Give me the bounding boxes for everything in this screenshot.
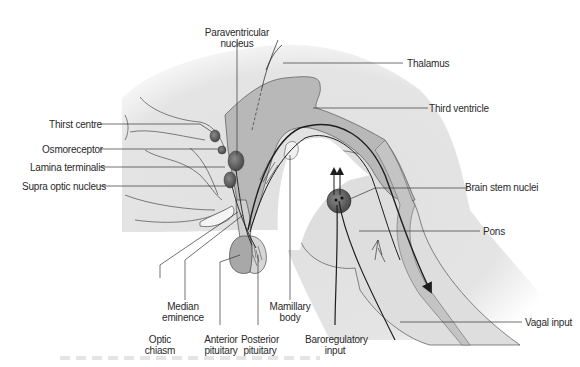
label-line: Baroregulatory [305,334,365,345]
label-lamina-terminalis: Lamina terminalis [30,162,105,173]
label-mamillary-body: Mamillary body [265,301,315,323]
label-line: Median [158,301,208,312]
label-paraventricular-nucleus: Paraventricular nucleus [202,27,272,49]
label-thirst-centre: Thirst centre [49,119,102,130]
label-posterior-pituitary: Posterior pituitary [238,334,282,356]
label-line: Optic [140,334,180,345]
label-line: body [265,312,315,323]
label-optic-chiasm: Optic chiasm [140,334,180,356]
label-vagal-input: Vagal input [525,317,572,328]
label-line: Paraventricular [202,27,272,38]
label-line: Anterior [200,334,242,345]
anterior-pituitary-shape [230,236,253,274]
paraventricular-nucleus-shape [228,151,244,171]
label-supra-optic-nucleus: Supra optic nucleus [22,181,106,192]
label-anterior-pituitary: Anterior pituitary [200,334,242,356]
label-third-ventricle: Third ventricle [429,103,489,114]
label-line: pituitary [238,345,282,356]
label-line: eminence [158,312,208,323]
label-pons: Pons [483,226,505,237]
label-brain-stem-nuclei: Brain stem nuclei [465,182,538,193]
label-line: Posterior [238,334,282,345]
label-line: input [305,345,365,356]
clipped-caption [60,356,320,360]
neuron-dot [341,197,344,200]
label-median-eminence: Median eminence [158,301,208,323]
supraoptic-nucleus-shape [224,172,236,188]
osmoreceptor-nucleus [218,146,226,154]
neuron-dot [335,199,338,202]
label-line: chiasm [140,345,180,356]
label-line: pituitary [200,345,242,356]
label-osmoreceptor: Osmoreceptor [42,144,103,155]
label-line: nucleus [202,38,272,49]
label-baroregulatory-input: Baroregulatory input [305,334,365,356]
label-thalamus: Thalamus [407,58,449,69]
label-line: Mamillary [265,301,315,312]
